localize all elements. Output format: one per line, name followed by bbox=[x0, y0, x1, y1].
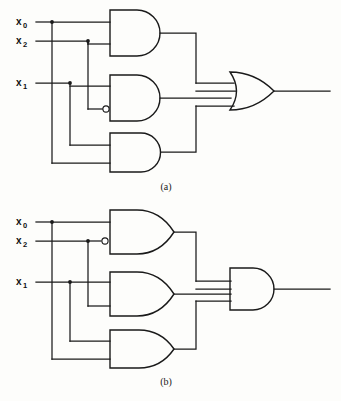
input-label-b-x0: x 0 bbox=[16, 216, 27, 230]
junction-dot-b-x2 bbox=[86, 239, 90, 243]
input-label-a-x2-sub: 2 bbox=[23, 40, 27, 49]
wire-a-g3-out bbox=[161, 106, 196, 152]
input-label-b-x2: x 2 bbox=[16, 235, 27, 249]
input-label-b-x1: x 1 bbox=[16, 276, 27, 290]
figure-page: x 0 x 2 x 1 (a) bbox=[0, 0, 341, 401]
junction-dot-a-x0 bbox=[50, 20, 54, 24]
logic-circuit-figure: x 0 x 2 x 1 (a) bbox=[0, 0, 341, 401]
input-label-a-x0-base: x bbox=[16, 16, 22, 27]
junction-dot-a-x1 bbox=[68, 81, 72, 85]
gate-b-out-and-body bbox=[230, 268, 274, 310]
input-label-b-x2-sub: 2 bbox=[23, 240, 27, 249]
bubble-b-g1-inverted-input bbox=[102, 238, 108, 244]
caption-panel-a: (a) bbox=[160, 181, 171, 193]
caption-panel-b: (b) bbox=[160, 376, 172, 388]
input-label-b-x1-base: x bbox=[16, 276, 22, 287]
gate-a-g1-and-body bbox=[110, 10, 160, 56]
panel-b: x 0 x 2 x 1 (b) bbox=[16, 210, 330, 388]
bubble-a-g2-inverted-input bbox=[103, 106, 109, 112]
gate-b-g2-or-body bbox=[110, 272, 174, 316]
input-label-b-x2-base: x bbox=[16, 235, 22, 246]
wire-b-g3-out bbox=[174, 301, 196, 349]
input-label-a-x2: x 2 bbox=[16, 35, 27, 49]
gate-b-g1-or-body bbox=[110, 210, 174, 254]
input-label-a-x1-base: x bbox=[16, 77, 22, 88]
input-label-a-x0: x 0 bbox=[16, 16, 27, 30]
input-label-b-x0-base: x bbox=[16, 216, 22, 227]
gate-a-g2-and-body bbox=[110, 75, 160, 121]
input-label-a-x1: x 1 bbox=[16, 77, 27, 91]
wire-b-g1-out bbox=[174, 232, 196, 281]
gate-a-g3-and-body bbox=[110, 133, 161, 172]
input-label-b-x1-sub: 1 bbox=[23, 281, 27, 290]
input-label-b-x0-sub: 0 bbox=[23, 221, 27, 230]
input-label-a-x1-sub: 1 bbox=[23, 82, 27, 91]
junction-dot-b-x0 bbox=[50, 220, 54, 224]
junction-dot-b-x1 bbox=[68, 280, 72, 284]
junction-dot-a-x2 bbox=[86, 39, 90, 43]
panel-a: x 0 x 2 x 1 (a) bbox=[16, 10, 330, 193]
input-label-a-x2-base: x bbox=[16, 35, 22, 46]
input-label-a-x0-sub: 0 bbox=[23, 21, 27, 30]
wire-a-g1-out bbox=[160, 33, 196, 83]
gate-b-g3-or-body bbox=[110, 330, 174, 368]
